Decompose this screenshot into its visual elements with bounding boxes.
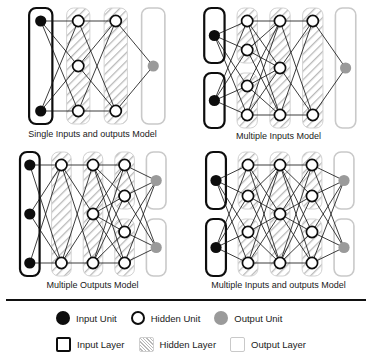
hidden-unit-node bbox=[110, 15, 121, 26]
hidden-unit-node bbox=[306, 226, 317, 237]
hidden-unit-node bbox=[306, 257, 317, 268]
input-unit-node bbox=[24, 159, 35, 170]
hidden-unit-node bbox=[274, 15, 285, 26]
legend-label-hidden-layer: Hidden Layer bbox=[160, 339, 217, 350]
input-unit-node bbox=[210, 242, 221, 253]
hidden-unit-node bbox=[56, 159, 67, 170]
hidden-unit-node bbox=[73, 105, 84, 116]
legend-label-output-unit: Output Unit bbox=[234, 313, 282, 324]
hidden-unit-node bbox=[274, 208, 285, 219]
figure-canvas: Single Inputs and outputs Model Multiple… bbox=[0, 0, 371, 360]
input-unit-node bbox=[35, 15, 46, 26]
legend-item-output-unit: Output Unit bbox=[214, 311, 282, 325]
hidden-unit-node bbox=[56, 257, 67, 268]
hidden-unit-node bbox=[242, 159, 253, 170]
legend-label-input-layer: Input Layer bbox=[77, 339, 125, 350]
panel-multiple-inputs-and-outputs bbox=[206, 152, 354, 276]
panel-single-inputs-and-outputs bbox=[29, 8, 165, 124]
output-unit-node bbox=[338, 175, 349, 186]
input-unit-node bbox=[24, 208, 35, 219]
hidden-unit-node bbox=[87, 159, 98, 170]
hidden-unit-node bbox=[119, 190, 130, 201]
input-unit-node bbox=[210, 175, 221, 186]
output-layer-icon bbox=[230, 337, 245, 352]
hidden-unit-node bbox=[119, 257, 130, 268]
hidden-unit-node bbox=[242, 190, 253, 201]
input-unit-node bbox=[209, 30, 220, 41]
hidden-unit-node bbox=[306, 159, 317, 170]
hidden-unit-node bbox=[274, 62, 285, 73]
panel-multiple-outputs bbox=[20, 152, 166, 276]
panel-multiple-inputs bbox=[204, 8, 356, 128]
hidden-unit-node bbox=[307, 15, 318, 26]
hidden-unit-node bbox=[87, 257, 98, 268]
hidden-unit-node bbox=[242, 226, 253, 237]
hidden-layer-icon bbox=[139, 337, 154, 352]
output-unit-node bbox=[340, 62, 351, 73]
legend-item-hidden-layer: Hidden Layer bbox=[139, 337, 217, 352]
legend-item-hidden-unit: Hidden Unit bbox=[131, 311, 201, 325]
input-unit-node bbox=[35, 105, 46, 116]
output-unit-node bbox=[148, 60, 159, 71]
hidden-unit-node bbox=[242, 44, 253, 55]
caption-panel-3: Multiple Outputs Model bbox=[0, 280, 185, 291]
input-unit-node bbox=[209, 95, 220, 106]
hidden-unit-node bbox=[242, 15, 253, 26]
network-diagrams bbox=[0, 0, 371, 296]
caption-panel-2: Multiple Inputs Model bbox=[186, 131, 371, 142]
hidden-unit-node bbox=[87, 208, 98, 219]
hidden-unit-icon bbox=[131, 311, 145, 325]
legend-units-row: Input Unit Hidden Unit Output Unit bbox=[56, 311, 282, 325]
input-layer-icon bbox=[56, 337, 71, 352]
legend-layers-row: Input Layer Hidden Layer Output Layer bbox=[56, 337, 306, 352]
output-unit-node bbox=[151, 175, 162, 186]
hidden-unit-node bbox=[274, 159, 285, 170]
output-unit-node bbox=[338, 242, 349, 253]
hidden-unit-node bbox=[242, 257, 253, 268]
caption-panel-1: Single Inputs and outputs Model bbox=[0, 129, 185, 140]
caption-panel-4: Multiple Inputs and outputs Model bbox=[186, 280, 371, 291]
legend-label-input-unit: Input Unit bbox=[76, 313, 117, 324]
hidden-unit-node bbox=[110, 105, 121, 116]
legend-divider bbox=[6, 299, 366, 301]
hidden-unit-node bbox=[119, 159, 130, 170]
input-unit-icon bbox=[56, 311, 70, 325]
output-unit-node bbox=[151, 242, 162, 253]
hidden-unit-node bbox=[242, 80, 253, 91]
output-unit-icon bbox=[214, 311, 228, 325]
hidden-unit-node bbox=[73, 60, 84, 71]
legend-label-output-layer: Output Layer bbox=[251, 339, 306, 350]
legend-item-input-layer: Input Layer bbox=[56, 337, 125, 352]
hidden-unit-node bbox=[307, 109, 318, 120]
input-unit-node bbox=[24, 257, 35, 268]
hidden-unit-node bbox=[274, 257, 285, 268]
legend-item-input-unit: Input Unit bbox=[56, 311, 117, 325]
hidden-unit-node bbox=[73, 15, 84, 26]
legend-label-hidden-unit: Hidden Unit bbox=[151, 313, 201, 324]
hidden-unit-node bbox=[274, 109, 285, 120]
legend-item-output-layer: Output Layer bbox=[230, 337, 306, 352]
hidden-unit-node bbox=[306, 190, 317, 201]
hidden-unit-node bbox=[242, 109, 253, 120]
hidden-unit-node bbox=[119, 226, 130, 237]
